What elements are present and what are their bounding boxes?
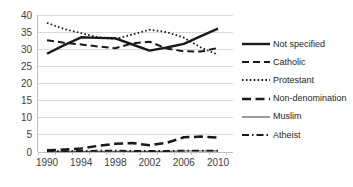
y-axis-tick-label: 20 [21,78,33,89]
y-axis-tick-label: 25 [21,61,33,72]
x-axis-tick-label: 2010 [207,157,230,168]
legend-label: Atheist [273,131,301,140]
x-axis-tick-label: 1998 [104,157,127,168]
legend-label: Catholic [273,58,306,67]
y-axis-tick-label: 35 [21,27,33,38]
legend-label: Protestant [273,76,314,85]
line-chart: 0510152025303540199019941998200220062010… [0,0,353,187]
x-axis-tick-label: 1994 [70,157,93,168]
legend-label: Not specified [273,40,325,49]
series-line-non-denomination [47,137,218,151]
legend-swatch-muslim-line [241,111,271,123]
legend-item-atheist: Atheist [241,126,347,144]
y-axis-tick-label: 40 [21,10,33,21]
legend-item-non-denomination: Non-denomination [241,90,347,108]
legend-swatch-catholic-line [241,56,271,68]
legend-item-protestant: Protestant [241,71,347,89]
legend-swatch-atheist-line [241,129,271,141]
y-axis-tick-label: 5 [26,129,32,140]
y-axis-tick-label: 10 [21,112,33,123]
legend-item-muslim: Muslim [241,108,347,126]
legend-swatch-not-specified-line [241,38,271,50]
y-axis-tick-label: 30 [21,44,33,55]
legend-label: Muslim [273,112,302,121]
legend-swatch-protestant-line [241,74,271,86]
x-axis-tick-label: 2006 [173,157,196,168]
legend: Not specifiedCatholicProtestantNon-denom… [241,35,347,144]
x-axis-tick-label: 1990 [36,157,59,168]
x-axis-tick-label: 2002 [138,157,161,168]
y-axis-tick-label: 15 [21,95,33,106]
legend-label: Non-denomination [273,94,347,103]
y-axis-tick-label: 0 [26,147,32,158]
legend-item-catholic: Catholic [241,53,347,71]
legend-swatch-non-denomination-line [241,93,271,105]
legend-item-not-specified: Not specified [241,35,347,53]
